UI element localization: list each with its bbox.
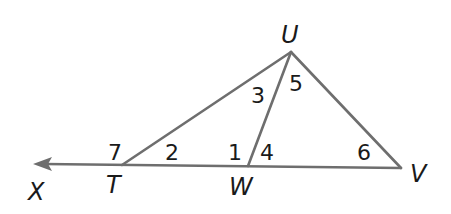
point-label-u: U [281, 21, 299, 49]
angle-label-7: 7 [108, 140, 122, 165]
angle-label-5: 5 [289, 71, 303, 96]
point-label-x: X [26, 178, 45, 206]
angle-label-2: 2 [165, 140, 179, 165]
angle-label-1: 1 [228, 140, 242, 165]
segment-uv [291, 52, 401, 168]
angle-label-3: 3 [251, 83, 265, 108]
point-label-t: T [106, 171, 123, 199]
triangle-diagram: U T W V X 7 2 1 4 3 5 6 [0, 0, 451, 214]
point-label-w: W [229, 173, 254, 201]
angle-label-6: 6 [357, 140, 371, 165]
angle-label-4: 4 [260, 140, 274, 165]
point-label-v: V [410, 160, 428, 188]
ray-tx [44, 164, 401, 168]
